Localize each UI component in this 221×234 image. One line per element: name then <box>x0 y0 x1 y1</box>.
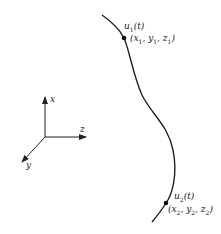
x-axis-label: x <box>50 95 55 104</box>
y-axis-label: y <box>26 161 31 170</box>
diagram-canvas: x z y u1(t) (x1, y1, z1) u2(t) (x2, y2, … <box>0 0 221 234</box>
curve-path <box>102 15 175 222</box>
point-u1-dot <box>122 36 127 41</box>
y-axis-arrow <box>22 137 45 162</box>
point-u1-label: u1(t) <box>124 22 144 33</box>
point-u1-coords: (x1, y1, z1) <box>130 34 175 45</box>
point-u2-coords: (x2, y2, z2) <box>168 205 213 216</box>
z-axis-label: z <box>80 125 85 134</box>
coordinate-axes <box>22 97 86 162</box>
point-u2-label: u2(t) <box>174 192 194 203</box>
